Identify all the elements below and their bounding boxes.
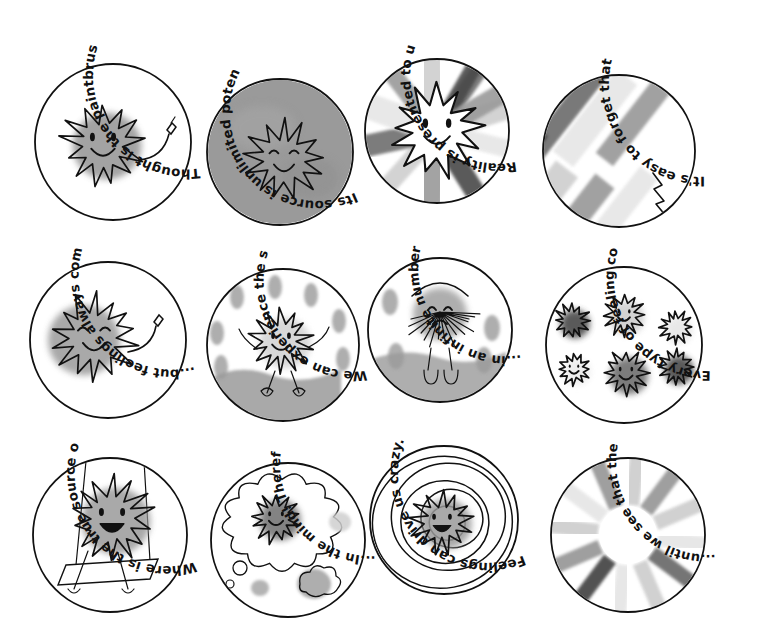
- panel-scene: [34, 459, 186, 611]
- panel-scene: [349, 41, 524, 220]
- panel-scene: [548, 455, 709, 616]
- illustration-sheet: Thought is the paintbrush of our experie…: [0, 0, 761, 632]
- panel-9: Where is the true source of experience?: [0, 0, 198, 612]
- panel-2: Its source is unlimited potential.: [0, 0, 360, 225]
- panel-scene: [212, 464, 364, 616]
- panel-grid-canvas: Thought is the paintbrush of our experie…: [0, 0, 761, 632]
- panel-scene: [362, 445, 523, 599]
- panel-scene: [486, 71, 694, 250]
- panel-5: ...but feelings always come from a consi…: [0, 0, 197, 418]
- panel-1: Thought is the paintbrush of our experie…: [0, 0, 201, 220]
- panel-scene: [547, 268, 701, 422]
